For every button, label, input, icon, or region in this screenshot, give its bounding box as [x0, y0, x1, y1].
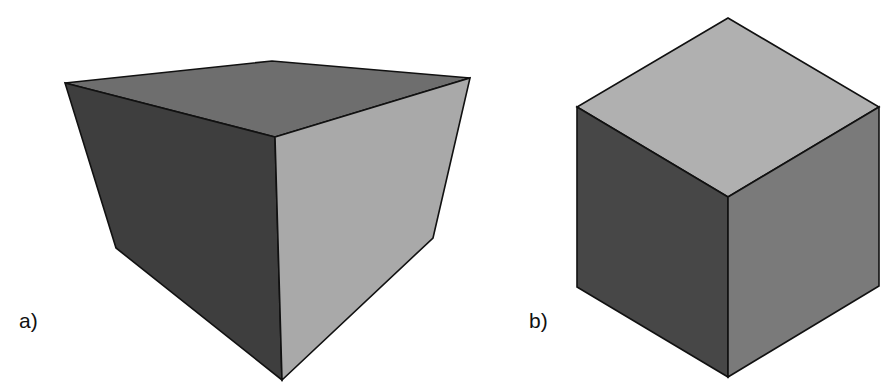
panel-label-a: a) [19, 310, 38, 331]
perspective-cube [65, 61, 470, 380]
cube-figure [0, 0, 896, 390]
isometric-cube [577, 18, 879, 377]
panel-label-b: b) [529, 310, 548, 331]
